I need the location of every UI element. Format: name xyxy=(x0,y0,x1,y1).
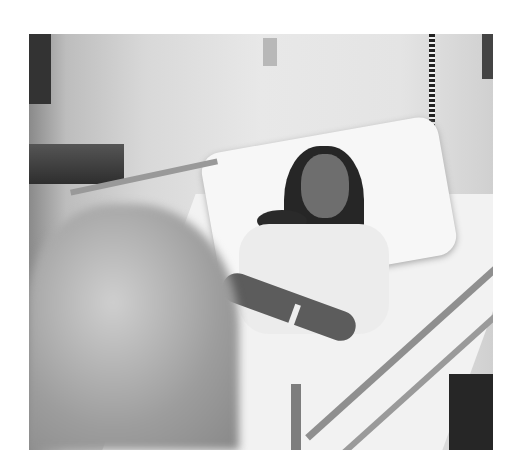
hospital-photo xyxy=(29,34,493,450)
blurred-foreground-figure xyxy=(29,204,239,450)
face xyxy=(301,154,349,218)
wall-outlet xyxy=(263,38,277,66)
side-table xyxy=(29,144,124,184)
dark-wall-edge xyxy=(29,34,51,104)
bed-rail-post xyxy=(291,384,301,450)
coiled-cord xyxy=(429,34,435,134)
dark-floor-right xyxy=(449,374,493,450)
right-wall-panel xyxy=(482,34,493,79)
